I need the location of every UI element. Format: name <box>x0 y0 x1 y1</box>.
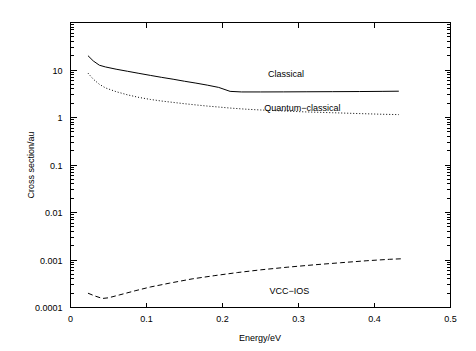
curve-label-quantum-classical: Quantum−classical <box>264 103 340 113</box>
y-tick-label-5: 10 <box>52 66 62 76</box>
y-tick-label-2: 0.01 <box>45 208 63 218</box>
x-tick-label-4: 0.4 <box>368 314 381 324</box>
curve-label-vcc-ios: VCC−IOS <box>270 286 310 296</box>
curve-label-classical: Classical <box>268 69 304 79</box>
y-tick-label-1: 0.001 <box>40 256 63 266</box>
x-tick-label-5: 0.5 <box>444 314 457 324</box>
x-tick-label-3: 0.3 <box>292 314 305 324</box>
x-axis-title: Energy/eV <box>239 333 281 343</box>
x-tick-label-0: 0 <box>68 314 73 324</box>
y-tick-label-0: 0.0001 <box>35 303 63 313</box>
y-tick-label-3: 0.1 <box>50 161 63 171</box>
y-axis-title: Cross section/au <box>26 131 36 198</box>
y-tick-label-4: 1 <box>57 113 62 123</box>
x-tick-label-2: 0.2 <box>216 314 229 324</box>
chart-figure: 00.10.20.30.40.5 0.00010.0010.010.1110 C… <box>0 0 476 351</box>
cross-section-vs-energy-plot: 00.10.20.30.40.5 0.00010.0010.010.1110 C… <box>0 0 476 351</box>
x-tick-label-1: 0.1 <box>140 314 153 324</box>
